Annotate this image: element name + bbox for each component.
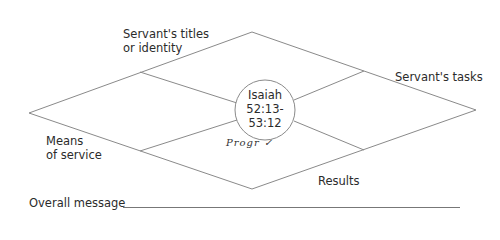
- label-servants-titles: Servant's titles or identity: [123, 27, 209, 55]
- center-line: 52:13-: [235, 102, 295, 116]
- connector-bottom-left: [140, 120, 237, 151]
- overall-message-blank[interactable]: [123, 207, 460, 208]
- connector-top-left: [140, 72, 237, 103]
- label-servants-tasks: Servant's tasks: [395, 70, 483, 84]
- connector-bottom-right: [294, 121, 364, 150]
- connector-top-right: [294, 71, 364, 100]
- label-results: Results: [318, 174, 360, 188]
- overall-message-label: Overall message: [29, 196, 125, 210]
- label-means-of-service: Means of service: [46, 134, 102, 162]
- handwritten-note: Progr ✓: [226, 137, 273, 148]
- center-line: 53:12: [235, 116, 295, 130]
- center-line: Isaiah: [235, 88, 295, 102]
- center-passage-reference: Isaiah 52:13- 53:12: [235, 88, 295, 130]
- label-line: Servant's titles: [123, 27, 209, 41]
- label-line: Means: [46, 134, 102, 148]
- label-line: of service: [46, 148, 102, 162]
- label-line: or identity: [123, 41, 209, 55]
